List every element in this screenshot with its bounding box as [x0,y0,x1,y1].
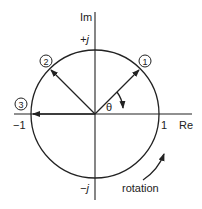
svg-text:3: 3 [18,100,23,110]
angle-label: θ [106,101,112,113]
plus-j-label: +j [80,33,89,45]
one-label: 1 [161,119,167,131]
imag-axis-label: Im [80,11,92,23]
phasor-2 [51,70,95,114]
real-axis-label: Re [179,119,193,131]
unit-circle-diagram: θ 1 2 3 Im +j −j −1 1 Re rotation [0,0,202,209]
minus-j-label: −j [80,182,89,194]
svg-text:1: 1 [142,57,147,67]
rotation-label: rotation [122,182,159,194]
svg-text:2: 2 [43,57,48,67]
phasor-2-label: 2 [40,55,52,67]
phasor-3-label: 3 [15,98,27,110]
minus-one-label: −1 [13,119,26,131]
angle-arc [117,92,123,108]
rotation-arrow [143,154,164,180]
phasor-1-label: 1 [139,55,151,67]
